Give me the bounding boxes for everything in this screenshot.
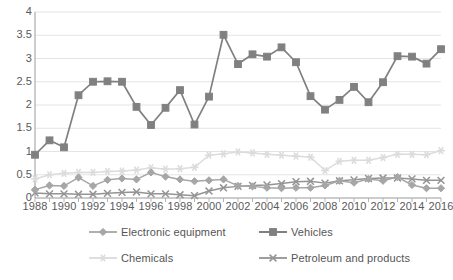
x-tick-label: 2010 — [342, 200, 367, 212]
data-marker — [46, 182, 53, 189]
data-marker — [322, 106, 329, 113]
data-marker — [177, 87, 184, 94]
legend-item-petroleum-and-products[interactable]: Petroleum and products — [258, 250, 410, 266]
x-tick-label: 2002 — [226, 200, 251, 212]
data-marker — [235, 61, 242, 68]
data-marker — [423, 60, 430, 67]
x-tick-label: 2000 — [197, 200, 222, 212]
x-tick-label: 2014 — [400, 200, 425, 212]
x-tick-label: 1998 — [168, 200, 193, 212]
data-marker — [61, 144, 68, 151]
legend-swatch-cross-icon — [258, 251, 288, 265]
x-tick-label: 1990 — [52, 200, 77, 212]
data-marker — [148, 122, 155, 129]
data-marker — [133, 167, 141, 174]
data-marker — [249, 51, 256, 58]
data-marker — [220, 31, 227, 38]
gridlines — [35, 12, 441, 175]
data-marker — [119, 78, 126, 85]
data-marker — [336, 96, 343, 103]
data-marker — [437, 147, 445, 154]
x-tick-label: 1988 — [23, 200, 48, 212]
legend-label: Vehicles — [291, 226, 333, 238]
series-vehicles — [32, 31, 445, 158]
data-marker — [394, 53, 401, 60]
legend-swatch-star-icon — [88, 251, 118, 265]
data-marker — [292, 153, 300, 160]
data-marker — [206, 93, 213, 100]
legend-item-vehicles[interactable]: Vehicles — [258, 224, 333, 240]
data-marker — [191, 121, 198, 128]
legend-label: Chemicals — [121, 252, 173, 264]
data-marker — [270, 229, 277, 236]
data-marker — [60, 170, 68, 177]
data-marker — [90, 78, 97, 85]
data-marker — [46, 137, 53, 144]
data-marker — [104, 176, 111, 183]
data-marker — [293, 59, 300, 66]
data-marker — [351, 83, 358, 90]
data-marker — [99, 228, 106, 235]
data-marker — [176, 165, 184, 172]
x-tick-label: 1996 — [139, 200, 164, 212]
legend-swatch-diamond-icon — [88, 225, 118, 239]
data-marker — [307, 184, 314, 191]
x-tick-label: 2012 — [371, 200, 396, 212]
data-marker — [46, 171, 54, 178]
data-marker — [278, 44, 285, 51]
data-marker — [104, 168, 112, 175]
data-marker — [423, 151, 431, 158]
data-marker — [220, 176, 227, 183]
data-marker — [162, 104, 169, 111]
data-marker — [104, 78, 111, 85]
plot-area: 00.511.522.533.54 1988199019921994199619… — [0, 0, 447, 220]
data-marker — [249, 149, 257, 156]
legend-item-chemicals[interactable]: Chemicals — [88, 250, 173, 266]
plot-canvas — [0, 0, 447, 220]
legend-label: Electronic equipment — [121, 226, 226, 238]
data-marker — [423, 185, 430, 192]
data-marker — [278, 152, 286, 159]
data-marker — [437, 185, 444, 192]
data-marker — [75, 92, 82, 99]
data-marker — [264, 53, 271, 60]
data-marker — [176, 176, 183, 183]
data-marker — [31, 186, 38, 193]
data-marker — [89, 182, 96, 189]
legend-label: Petroleum and products — [291, 252, 410, 264]
x-tick-label: 1994 — [110, 200, 135, 212]
data-marker — [409, 53, 416, 60]
data-marker — [162, 166, 170, 173]
legend-item-electronic-equipment[interactable]: Electronic equipment — [88, 224, 226, 240]
data-marker — [60, 182, 67, 189]
series-line — [35, 35, 441, 155]
x-tick-label: 2006 — [284, 200, 309, 212]
x-axis: 1988199019921994199619982000200220042006… — [0, 200, 447, 220]
data-marker — [379, 154, 387, 161]
data-marker — [133, 103, 140, 110]
data-marker — [32, 151, 39, 158]
data-marker — [205, 177, 212, 184]
data-marker — [191, 178, 198, 185]
data-marker — [365, 99, 372, 106]
data-marker — [234, 149, 242, 156]
x-tick-label: 1992 — [81, 200, 106, 212]
data-marker — [307, 93, 314, 100]
data-marker — [162, 173, 169, 180]
x-tick-label: 2004 — [255, 200, 280, 212]
data-marker — [365, 157, 373, 164]
x-tick-label: 2008 — [313, 200, 338, 212]
data-marker — [118, 175, 125, 182]
data-marker — [438, 46, 445, 53]
data-marker — [380, 79, 387, 86]
data-marker — [99, 255, 107, 262]
data-marker — [133, 176, 140, 183]
data-marker — [118, 168, 126, 175]
x-tick-label: 2016 — [429, 200, 453, 212]
legend-swatch-square-icon — [258, 225, 288, 239]
data-marker — [350, 157, 358, 164]
chart-legend: Electronic equipmentVehiclesChemicalsPet… — [0, 220, 447, 280]
